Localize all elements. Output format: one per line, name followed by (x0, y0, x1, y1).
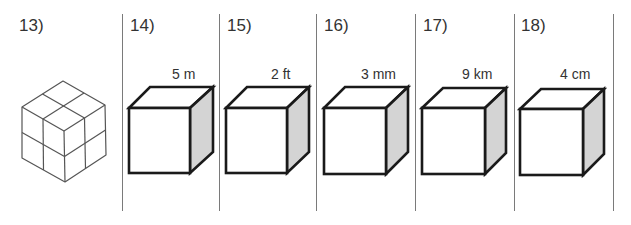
isometric-cube-figure (22, 81, 106, 182)
figures (0, 0, 631, 225)
cube-figure-14 (129, 87, 213, 173)
cube-figure-15 (226, 87, 309, 173)
cube-figure-17 (422, 88, 506, 174)
cube-figure-16 (324, 87, 408, 174)
cube-figure-18 (520, 89, 604, 175)
